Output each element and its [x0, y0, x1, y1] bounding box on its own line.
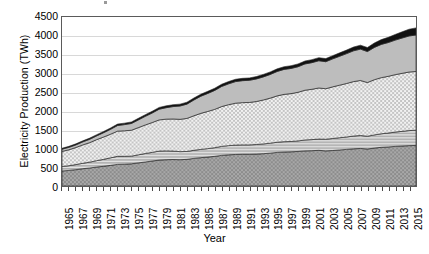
x-tick-label: 2005: [344, 208, 354, 230]
y-tick-label: 4500: [24, 11, 58, 21]
x-tick-label: 2003: [330, 208, 340, 230]
chart-root: Electricity Production (TWh) 05001000150…: [0, 0, 429, 254]
x-axis-tick-labels: 1965196719691971197319751977197919811983…: [0, 190, 429, 234]
x-tick-label: 1979: [163, 208, 173, 230]
y-tick-label: 2500: [24, 87, 58, 97]
x-tick-label: 1997: [288, 208, 298, 230]
x-tick-label: 1969: [93, 208, 103, 230]
x-tick-label: 1999: [302, 208, 312, 230]
x-tick-label: 1973: [121, 208, 131, 230]
y-tick-label: 2000: [24, 106, 58, 116]
x-tick-label: 2015: [414, 208, 424, 230]
x-tick-label: 1989: [233, 208, 243, 230]
x-tick-label: 1971: [107, 208, 117, 230]
y-tick-label: 500: [24, 163, 58, 173]
x-tick-label: 1967: [79, 208, 89, 230]
x-tick-label: 2007: [358, 208, 368, 230]
y-tick-label: 4000: [24, 30, 58, 40]
y-tick-label: 3000: [24, 68, 58, 78]
image-artifact: [104, 1, 107, 4]
area-svg: [62, 17, 416, 186]
x-tick-label: 1985: [205, 208, 215, 230]
x-tick-label: 1983: [191, 208, 201, 230]
x-tick-label: 1981: [177, 208, 187, 230]
x-tick-label: 2009: [372, 208, 382, 230]
x-tick-label: 1987: [219, 208, 229, 230]
x-tick-label: 1993: [261, 208, 271, 230]
x-tick-label: 1975: [135, 208, 145, 230]
y-tick-label: 1500: [24, 125, 58, 135]
x-tick-label: 2013: [400, 208, 410, 230]
x-tick-label: 2011: [386, 208, 396, 230]
y-tick-label: 3500: [24, 49, 58, 59]
y-tick-label: 1000: [24, 144, 58, 154]
x-tick-label: 1965: [65, 208, 75, 230]
x-tick-label: 1991: [247, 208, 257, 230]
x-tick-label: 1977: [149, 208, 159, 230]
x-tick-label: 1995: [274, 208, 284, 230]
x-axis-title: Year: [0, 232, 429, 244]
x-tick-label: 2001: [316, 208, 326, 230]
stacked-areas: [62, 17, 416, 186]
plot-area: [61, 16, 417, 187]
